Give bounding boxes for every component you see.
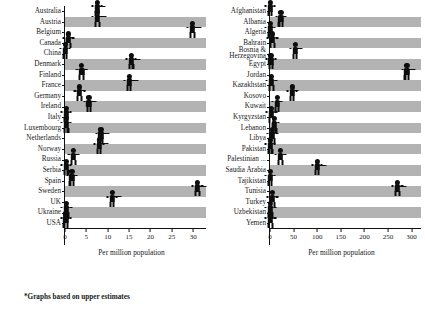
category-label: Italy bbox=[2, 112, 61, 123]
y-tick bbox=[267, 160, 270, 161]
data-marker bbox=[62, 116, 71, 133]
category-label: Yemen bbox=[214, 218, 266, 229]
x-axis-title-right: Per million population bbox=[214, 248, 421, 257]
chart-row bbox=[270, 154, 421, 165]
category-label: Denmark bbox=[2, 59, 61, 70]
category-label: Kosovo bbox=[214, 91, 266, 102]
category-label: China bbox=[2, 48, 61, 59]
x-tick bbox=[86, 229, 87, 232]
chart-row bbox=[65, 17, 206, 28]
chart-row bbox=[270, 112, 421, 123]
x-tick bbox=[65, 229, 66, 232]
category-label: Serbia bbox=[2, 165, 61, 176]
category-label: Ireland bbox=[2, 101, 61, 112]
y-tick bbox=[62, 181, 65, 182]
category-label: Lebanon bbox=[214, 123, 266, 134]
x-tick-label: 200 bbox=[359, 233, 370, 241]
y-tick bbox=[62, 85, 65, 86]
chart-panel-left: AustraliaAustriaBelgiumCanadaChinaDenmar… bbox=[0, 0, 212, 283]
category-label: Germany bbox=[2, 91, 61, 102]
x-tick bbox=[317, 229, 318, 232]
category-label: Austria bbox=[2, 17, 61, 28]
data-marker bbox=[108, 190, 117, 207]
category-label: Netherlands bbox=[2, 133, 61, 144]
y-tick bbox=[62, 22, 65, 23]
x-tick-label: 0 bbox=[63, 233, 67, 241]
data-marker bbox=[276, 10, 285, 27]
x-tick bbox=[171, 229, 172, 232]
chart-row bbox=[270, 197, 421, 208]
x-tick-label: 150 bbox=[336, 233, 347, 241]
x-tick-label: 15 bbox=[126, 233, 133, 241]
data-marker bbox=[291, 42, 300, 59]
chart-row bbox=[270, 144, 421, 155]
chart-row bbox=[270, 48, 421, 59]
chart-row bbox=[65, 186, 206, 197]
data-marker bbox=[95, 137, 104, 154]
plot-area-left: AustraliaAustriaBelgiumCanadaChinaDenmar… bbox=[2, 6, 206, 245]
chart-row bbox=[270, 27, 421, 38]
category-label: Canada bbox=[2, 38, 61, 49]
data-marker bbox=[77, 63, 86, 80]
y-tick bbox=[62, 149, 65, 150]
category-label: Ukraine bbox=[2, 207, 61, 218]
chart-row bbox=[65, 101, 206, 112]
category-label: Luxembourg bbox=[2, 123, 61, 134]
data-marker bbox=[61, 211, 70, 228]
category-labels-left: AustraliaAustriaBelgiumCanadaChinaDenmar… bbox=[2, 6, 64, 245]
x-tick-label: 0 bbox=[268, 233, 272, 241]
category-label: Uzbekistan bbox=[214, 207, 266, 218]
x-tick-label: 50 bbox=[290, 233, 297, 241]
figure-footnote: *Graphs based on upper estimates bbox=[24, 293, 130, 301]
data-marker bbox=[266, 0, 275, 17]
category-label: Russia bbox=[2, 154, 61, 165]
category-label: Tunisia bbox=[214, 186, 266, 197]
chart-row bbox=[65, 38, 206, 49]
data-marker bbox=[125, 74, 134, 91]
x-axis-title-left: Per million population bbox=[2, 248, 206, 257]
category-label: Kyrgyzstan bbox=[214, 112, 266, 123]
y-tick bbox=[62, 138, 65, 139]
chart-row bbox=[270, 123, 421, 134]
x-tick bbox=[107, 229, 108, 232]
chart-row bbox=[65, 112, 206, 123]
data-marker bbox=[93, 10, 102, 27]
data-marker bbox=[288, 84, 297, 101]
y-tick bbox=[62, 191, 65, 192]
x-tick-label: 300 bbox=[406, 233, 417, 241]
data-marker bbox=[313, 159, 322, 176]
category-label: Turkey bbox=[214, 197, 266, 208]
category-label: Tajikistan bbox=[214, 176, 266, 187]
x-tick-label: 5 bbox=[85, 233, 89, 241]
data-marker bbox=[266, 137, 275, 154]
data-marker bbox=[67, 169, 76, 186]
category-label: Norway bbox=[2, 144, 61, 155]
data-marker bbox=[84, 95, 93, 112]
data-marker bbox=[266, 169, 275, 186]
category-label: Kuwait bbox=[214, 101, 266, 112]
data-marker bbox=[127, 53, 136, 70]
chart-row bbox=[65, 207, 206, 218]
category-label: UK bbox=[2, 197, 61, 208]
category-label: Jordan bbox=[214, 70, 266, 81]
category-label: Spain bbox=[2, 176, 61, 187]
chart-row bbox=[65, 218, 206, 229]
x-tick bbox=[150, 229, 151, 232]
chart-row bbox=[270, 17, 421, 28]
x-tick bbox=[293, 229, 294, 232]
chart-row bbox=[270, 218, 421, 229]
chart-panel-right: AfghanistanAlbaniaAlgeriaBahrainBosnia &… bbox=[212, 0, 425, 283]
x-tick-label: 250 bbox=[383, 233, 394, 241]
chart-row bbox=[270, 6, 421, 17]
chart-row bbox=[270, 70, 421, 81]
category-label: Pakistan bbox=[214, 144, 266, 155]
chart-row bbox=[270, 133, 421, 144]
x-tick bbox=[364, 229, 365, 232]
y-tick bbox=[62, 11, 65, 12]
data-marker bbox=[188, 21, 197, 38]
x-tick bbox=[193, 229, 194, 232]
category-label: USA bbox=[2, 218, 61, 229]
y-tick bbox=[62, 96, 65, 97]
category-label: Kazakhstan bbox=[214, 80, 266, 91]
chart-row bbox=[65, 176, 206, 187]
